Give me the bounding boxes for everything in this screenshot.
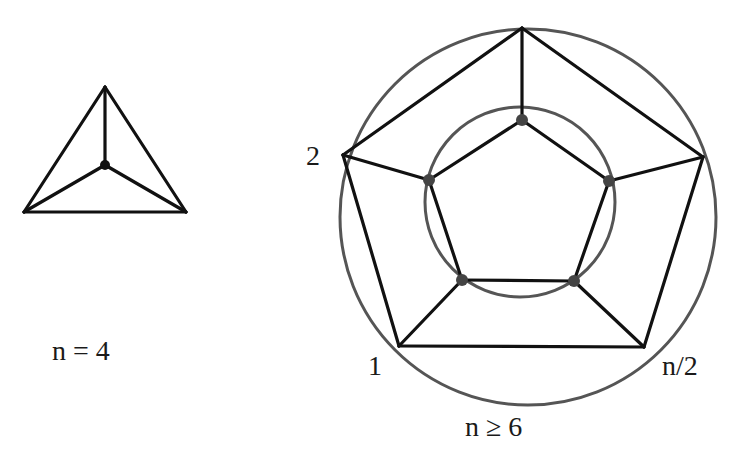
inner-vertex xyxy=(423,174,435,186)
label-vertex-n-half: n/2 xyxy=(662,350,698,381)
inner-vertex xyxy=(603,175,615,187)
graph-edge xyxy=(105,87,186,212)
inner-edge xyxy=(429,120,522,180)
outer-circle xyxy=(340,29,716,405)
inner-vertex xyxy=(456,274,468,286)
graph-edge xyxy=(24,87,105,212)
figure-canvas: n = 4 2 1 n/2 n ≥ 6 xyxy=(0,0,751,456)
left-graph-k4 xyxy=(24,87,186,212)
spoke-edge xyxy=(574,281,644,347)
inner-edge xyxy=(429,180,462,280)
inner-circle xyxy=(425,107,615,297)
inner-vertex xyxy=(516,114,528,126)
right-graph-caption: n ≥ 6 xyxy=(465,411,522,442)
left-graph-caption: n = 4 xyxy=(52,335,110,366)
spoke-edge xyxy=(609,157,703,181)
graph-edge xyxy=(24,165,105,212)
label-vertex-2: 2 xyxy=(306,140,320,171)
spoke-edge xyxy=(343,155,429,180)
inner-vertex xyxy=(568,275,580,287)
inner-edge xyxy=(522,120,609,181)
graph-edge xyxy=(105,165,186,212)
label-vertex-1: 1 xyxy=(368,350,382,381)
spoke-edge xyxy=(399,280,462,346)
center-vertex xyxy=(100,160,110,170)
right-graph-prism xyxy=(340,28,716,405)
outer-edge xyxy=(399,346,644,347)
inner-edge xyxy=(462,280,574,281)
outer-edge xyxy=(644,157,703,347)
outer-edge xyxy=(343,155,399,346)
